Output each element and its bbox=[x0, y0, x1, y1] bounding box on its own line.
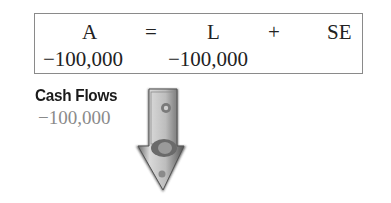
assets-header: A bbox=[82, 20, 97, 44]
equals-sign: = bbox=[145, 20, 157, 44]
liabilities-header: L bbox=[207, 20, 220, 44]
money-down-arrow-icon bbox=[134, 86, 188, 194]
equity-header: SE bbox=[327, 20, 352, 44]
cash-flows-title: Cash Flows bbox=[35, 86, 117, 106]
cash-flows-value: −100,000 bbox=[38, 107, 110, 129]
accounting-equation-box: A = L + SE −100,000 −100,000 bbox=[34, 13, 363, 74]
assets-value: −100,000 bbox=[43, 47, 123, 71]
liabilities-value: −100,000 bbox=[168, 47, 248, 71]
plus-sign: + bbox=[268, 20, 280, 44]
